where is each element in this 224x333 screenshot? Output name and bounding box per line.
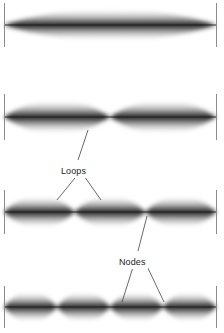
nodes-label: Nodes [119, 257, 146, 267]
loops-label-box: Loops [59, 160, 88, 178]
nodes-label-box: Nodes [117, 251, 148, 269]
standing-wave-figure: Loops Nodes [0, 0, 224, 333]
left-end-support [4, 286, 5, 328]
fourth-harmonic-loops [0, 0, 224, 333]
right-end-support [216, 286, 217, 328]
loops-label: Loops [61, 166, 86, 176]
